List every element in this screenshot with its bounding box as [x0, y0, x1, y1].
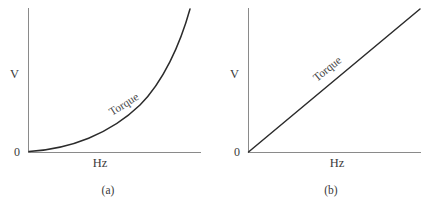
chart-a-origin-tick: 0: [14, 145, 20, 159]
chart-panel-b: 0 V Hz Torque (b): [217, 0, 434, 203]
chart-b-plot: 0 V Hz Torque (b): [217, 0, 434, 203]
chart-b-y-axis-label: V: [230, 67, 239, 81]
chart-b-caption: (b): [324, 184, 338, 197]
chart-b-origin-tick: 0: [234, 145, 240, 159]
chart-a-plot: 0 V Hz Torque (a): [0, 0, 217, 203]
chart-a-y-axis-label: V: [10, 67, 19, 81]
chart-a-caption: (a): [102, 184, 115, 197]
chart-b-x-axis-label: Hz: [330, 156, 345, 170]
chart-b-torque-line: [249, 9, 421, 152]
chart-a-x-axis-label: Hz: [93, 156, 108, 170]
chart-b-series-label: Torque: [311, 54, 344, 84]
chart-a-series-label: Torque: [107, 90, 141, 118]
chart-a-torque-curve: [29, 9, 190, 152]
chart-panel-a: 0 V Hz Torque (a): [0, 0, 217, 203]
figure-container: 0 V Hz Torque (a) 0 V Hz Torque: [0, 0, 434, 203]
